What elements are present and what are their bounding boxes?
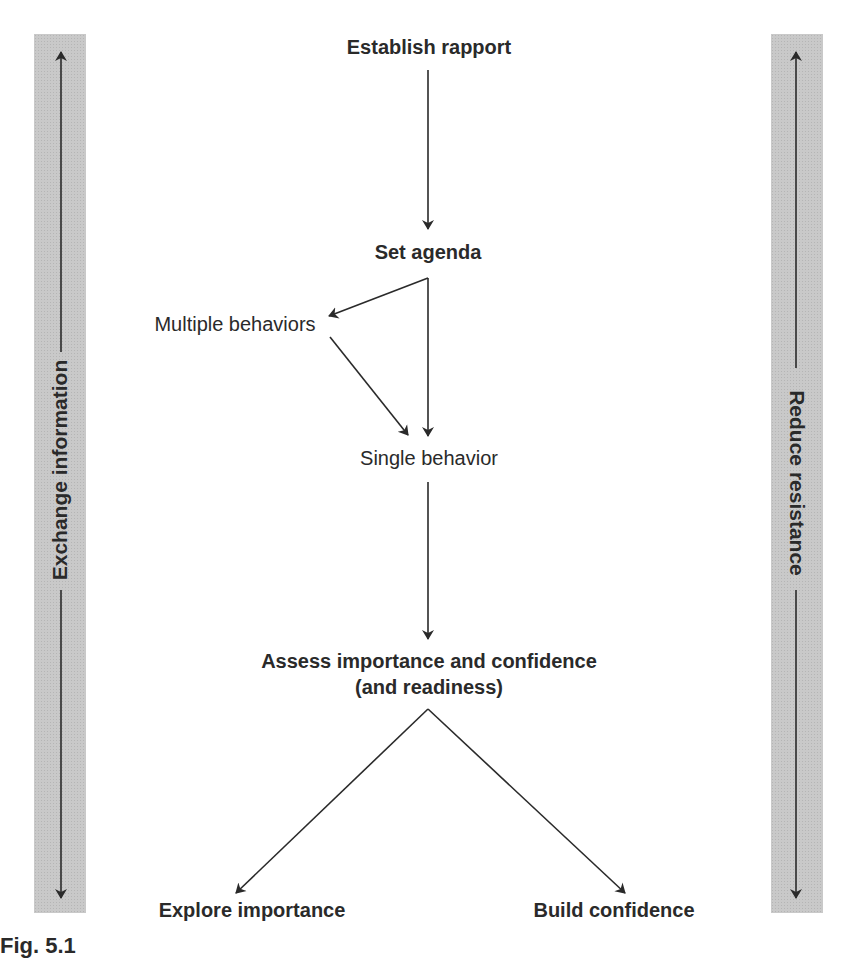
- node-assess-line2: (and readiness): [355, 675, 503, 699]
- node-explore-importance: Explore importance: [159, 898, 346, 922]
- node-assess-line1: Assess importance and confidence: [261, 649, 597, 673]
- figure-caption: Fig. 5.1: [0, 933, 76, 959]
- exchange-information-label: Exchange information: [48, 360, 72, 581]
- node-establish-rapport: Establish rapport: [347, 35, 511, 59]
- node-build-confidence: Build confidence: [533, 898, 694, 922]
- node-multiple-behaviors: Multiple behaviors: [154, 312, 315, 336]
- node-set-agenda: Set agenda: [375, 240, 482, 264]
- arrow-assess-to-build: [428, 709, 625, 893]
- arrow-assess-to-explore: [236, 709, 428, 893]
- arrow-multiple-to-single: [330, 337, 408, 435]
- arrow-agenda-to-multiple: [329, 278, 428, 316]
- reduce-resistance-label: Reduce resistance: [785, 390, 809, 576]
- node-single-behavior: Single behavior: [360, 446, 498, 470]
